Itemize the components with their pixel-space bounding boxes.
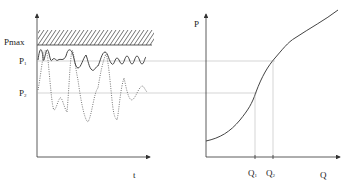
- q2-label: Q2: [266, 168, 276, 178]
- pmax-hatch: [30, 30, 160, 45]
- p-axis-label: P: [194, 19, 199, 29]
- right-plot: P Q Q1 Q2: [194, 10, 340, 180]
- diagram-canvas: Pmax P1 P2 t P Q Q1 Q2: [0, 0, 353, 184]
- q-axis-label: Q: [320, 170, 327, 180]
- q1-label: Q1: [248, 168, 258, 178]
- p-q-curve: [206, 10, 338, 141]
- t-axis-label: t: [133, 170, 136, 180]
- left-plot: Pmax P1 P2 t: [4, 14, 275, 180]
- p1-label: P1: [19, 56, 27, 66]
- p2-label: P2: [19, 88, 27, 98]
- solid-power-curve: [38, 50, 146, 71]
- pmax-label: Pmax: [4, 37, 25, 47]
